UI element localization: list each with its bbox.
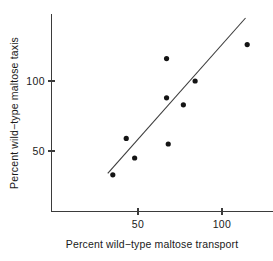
fit-line	[108, 18, 246, 173]
y-tick-label-50: 50	[33, 145, 45, 157]
data-point	[193, 78, 198, 83]
data-point	[132, 155, 137, 160]
y-axis-title: Percent wild−type maltose taxis	[8, 37, 20, 189]
data-point	[110, 172, 115, 177]
data-point	[245, 42, 250, 47]
data-point	[181, 102, 186, 107]
data-point	[164, 95, 169, 100]
y-tick-label-100: 100	[26, 75, 45, 87]
data-point	[164, 56, 169, 61]
plot-canvas: 100 50 50 100 Percent wild−type maltose …	[0, 0, 273, 261]
regression-line	[108, 18, 246, 173]
scatter-plot-figure: 100 50 50 100 Percent wild−type maltose …	[0, 0, 273, 261]
data-point	[166, 141, 171, 146]
x-tick-label-50: 50	[132, 218, 144, 230]
data-point	[124, 136, 129, 141]
x-tick-label-100: 100	[213, 218, 232, 230]
x-axis-title: Percent wild−type maltose transport	[66, 238, 238, 250]
data-point-group	[110, 42, 250, 177]
